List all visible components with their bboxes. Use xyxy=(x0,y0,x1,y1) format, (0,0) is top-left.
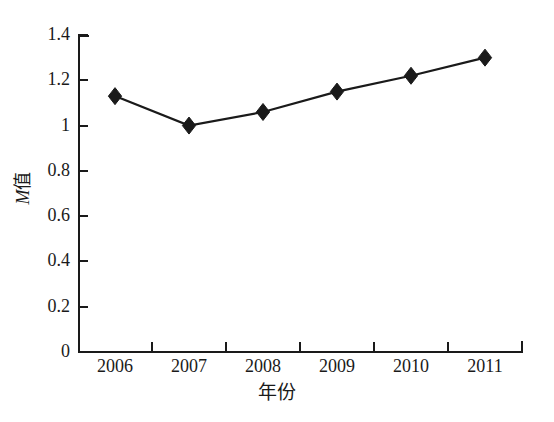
series-layer xyxy=(0,0,554,422)
data-point-marker xyxy=(404,67,417,84)
line-chart: 00.20.40.60.811.21.4 2006200720082009201… xyxy=(0,0,554,422)
data-point-marker xyxy=(330,83,343,100)
data-point-marker xyxy=(478,49,491,66)
data-point-marker xyxy=(182,117,195,134)
series-line xyxy=(115,58,485,126)
series-markers xyxy=(108,49,491,134)
data-point-marker xyxy=(108,88,121,105)
data-point-marker xyxy=(256,103,269,120)
